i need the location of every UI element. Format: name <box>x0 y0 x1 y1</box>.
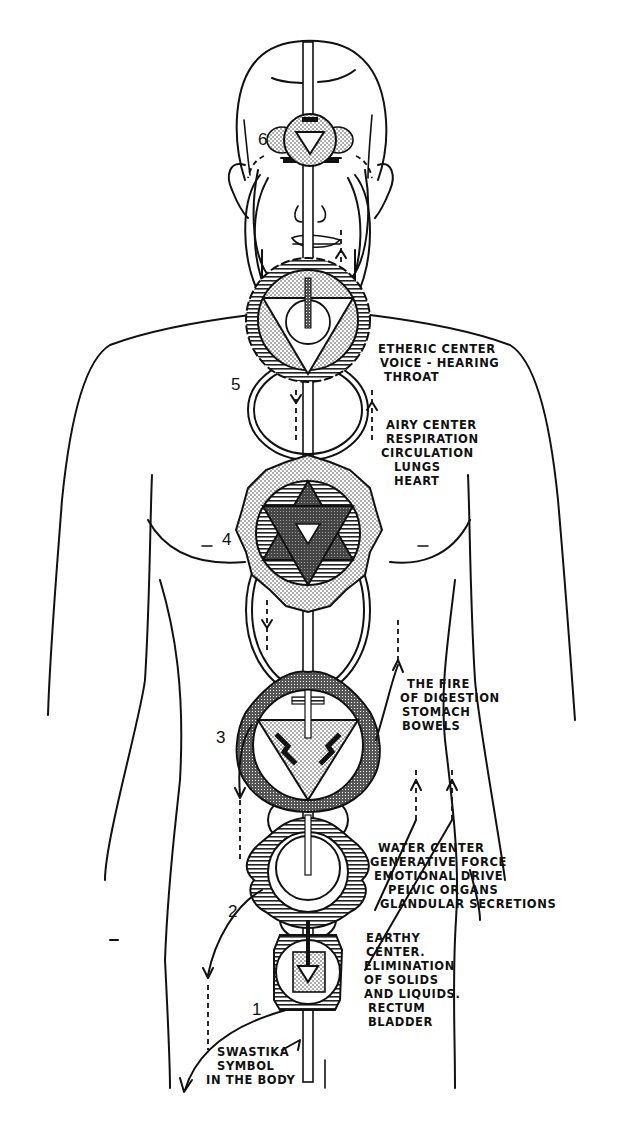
label-line: SYMBOL <box>217 1059 275 1073</box>
label-line: SWASTIKA <box>217 1045 289 1059</box>
number-3: 3 <box>216 728 225 747</box>
label-line: PELVIC ORGANS <box>388 883 498 897</box>
label-line: RESPIRATION <box>386 432 479 446</box>
label-line: VOICE - HEARING <box>380 356 499 370</box>
label-line: CIRCULATION <box>381 446 474 460</box>
label-center-5: ETHERIC CENTER VOICE - HEARING THROAT <box>378 342 499 384</box>
chakra-5-throat[interactable] <box>246 258 370 382</box>
label-line: STOMACH <box>402 705 471 719</box>
label-line: HEART <box>394 474 440 488</box>
label-center-4: AIRY CENTER RESPIRATION CIRCULATION LUNG… <box>381 418 479 488</box>
chakra-4-heart[interactable] <box>236 455 382 612</box>
label-line: GENERATIVE FORCE <box>370 855 507 869</box>
label-line: EARTHY <box>366 931 421 945</box>
chakra-diagram: 6 5 4 3 2 1 ETHERIC CENTER VOICE - HEARI… <box>0 0 617 1127</box>
number-5: 5 <box>231 375 240 394</box>
label-line: ETHERIC CENTER <box>378 342 496 356</box>
number-2: 2 <box>228 902 237 921</box>
label-line: THROAT <box>384 370 439 384</box>
label-line: THE FIRE <box>407 677 470 691</box>
label-line: ELIMINATION <box>364 959 455 973</box>
label-center-2: WATER CENTER GENERATIVE FORCE EMOTIONAL … <box>370 841 556 911</box>
number-4: 4 <box>222 530 231 549</box>
label-center-1: EARTHY CENTER. ELIMINATION OF SOLIDS AND… <box>364 931 460 1029</box>
chakra-3-navel[interactable] <box>237 672 380 812</box>
label-line: IN THE BODY <box>206 1073 295 1087</box>
number-6: 6 <box>258 130 267 149</box>
label-line: AND LIQUIDS. <box>364 987 460 1001</box>
label-swastika-symbol: SWASTIKA SYMBOL IN THE BODY <box>206 1045 295 1087</box>
label-line: AIRY CENTER <box>386 418 477 432</box>
label-line: OF SOLIDS <box>364 973 439 987</box>
label-line: EMOTIONAL DRIVE <box>374 869 503 883</box>
label-line: BLADDER <box>368 1015 433 1029</box>
label-line: CENTER. <box>366 945 425 959</box>
label-center-3: THE FIRE OF DIGESTION STOMACH BOWELS <box>400 677 500 733</box>
chakra-1-root[interactable] <box>274 920 342 1010</box>
label-line: GLANDULAR SECRETIONS <box>380 897 556 911</box>
chakra-2-sacral[interactable] <box>247 815 369 928</box>
label-line: BOWELS <box>402 719 460 733</box>
label-line: OF DIGESTION <box>400 691 500 705</box>
label-line: RECTUM <box>368 1001 425 1015</box>
label-line: WATER CENTER <box>378 841 484 855</box>
number-1: 1 <box>252 1000 261 1019</box>
label-line: LUNGS <box>394 460 441 474</box>
